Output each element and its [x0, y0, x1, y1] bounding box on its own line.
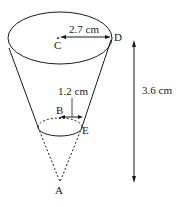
- left-slant-edge: [9, 48, 38, 127]
- label-point-b: B: [56, 104, 63, 116]
- label-bottom-radius: 1.2 cm: [58, 85, 88, 97]
- arrowhead-right-small-icon: [78, 115, 83, 119]
- label-point-e: E: [82, 124, 89, 136]
- center-point-b: [59, 117, 61, 119]
- bottom-ellipse-front: [38, 127, 82, 136]
- label-point-a: A: [55, 184, 63, 196]
- top-ellipse: [8, 12, 112, 64]
- bottom-ellipse-back: [38, 118, 82, 127]
- label-point-c: C: [54, 39, 61, 51]
- arrowhead-right-icon: [105, 35, 111, 39]
- frustum-diagram: 2.7 cm C D 1.2 cm B E A 3.6 cm: [0, 0, 180, 207]
- label-height: 3.6 cm: [142, 84, 172, 96]
- right-slant-edge: [82, 40, 111, 127]
- label-top-radius: 2.7 cm: [69, 23, 99, 35]
- arrowhead-up-icon: [132, 40, 136, 47]
- arrowhead-down-icon: [132, 176, 136, 183]
- label-point-d: D: [114, 31, 122, 43]
